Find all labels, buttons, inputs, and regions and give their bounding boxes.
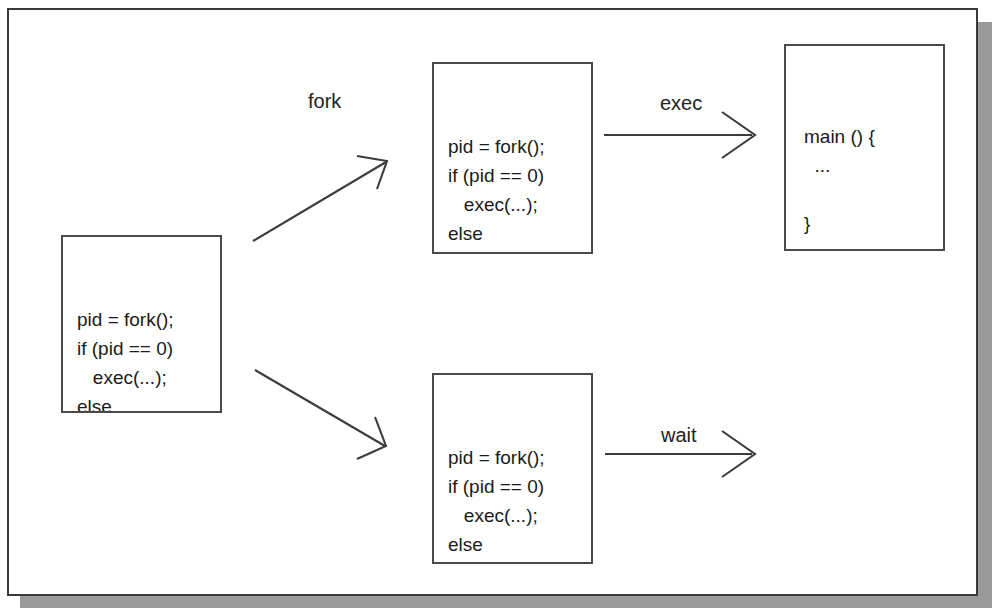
child-process-box-bottom[interactable]: pid = fork(); if (pid == 0) exec(...); e… <box>432 373 593 564</box>
parent-process-box[interactable]: pid = fork(); if (pid == 0) exec(...); e… <box>61 235 222 413</box>
child-process-code-bottom: pid = fork(); if (pid == 0) exec(...); e… <box>434 433 591 564</box>
main-program-code: main () { ... } <box>786 104 943 238</box>
child-process-box-top[interactable]: pid = fork(); if (pid == 0) exec(...); e… <box>432 62 593 254</box>
wait-edge-label: wait <box>661 424 697 447</box>
diagram-canvas: pid = fork(); if (pid == 0) exec(...); e… <box>0 0 994 610</box>
fork-arrow-top <box>253 156 387 241</box>
exec-arrow <box>604 112 755 158</box>
fork-arrow-bottom <box>255 370 386 459</box>
main-program-box[interactable]: main () { ... } <box>784 44 945 251</box>
child-process-code-top: pid = fork(); if (pid == 0) exec(...); e… <box>434 122 591 254</box>
fork-edge-label: fork <box>308 90 341 113</box>
exec-edge-label: exec <box>660 92 702 115</box>
parent-process-code: pid = fork(); if (pid == 0) exec(...); e… <box>63 295 220 413</box>
diagram-frame: pid = fork(); if (pid == 0) exec(...); e… <box>7 8 978 596</box>
